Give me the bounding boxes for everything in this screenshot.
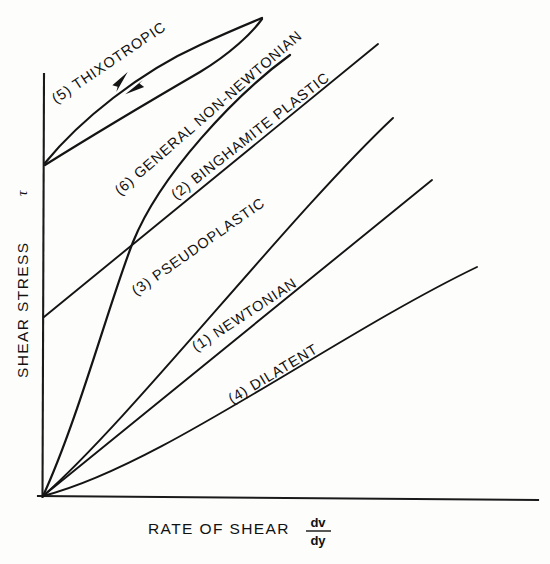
label-newtonian: (1) NEWTONIAN — [189, 275, 300, 355]
y-axis-tau-symbol: τ — [14, 190, 30, 196]
y-axis-line — [43, 74, 45, 497]
x-axis-label-group: RATE OF SHEAR dv dy — [148, 515, 331, 548]
x-axis-fraction-numerator: dv — [310, 515, 326, 530]
x-axis-label-text: RATE OF SHEAR — [148, 520, 290, 537]
x-axis-fraction-denominator: dy — [310, 533, 326, 548]
label-thixotropic: (5) THIXOTROPIC — [49, 18, 169, 106]
chart-canvas: (5) THIXOTROPIC (6) GENERAL NON-NEWTONIA… — [0, 0, 550, 564]
y-axis-label-group: SHEAR STRESS τ — [14, 190, 31, 378]
label-dilatent: (4) DILATENT — [225, 341, 320, 407]
x-axis-line — [38, 496, 538, 500]
rheology-figure: (5) THIXOTROPIC (6) GENERAL NON-NEWTONIA… — [0, 0, 550, 564]
thixotropic-forward-arrow-icon — [111, 72, 130, 92]
y-axis-label-text: SHEAR STRESS — [14, 241, 31, 378]
